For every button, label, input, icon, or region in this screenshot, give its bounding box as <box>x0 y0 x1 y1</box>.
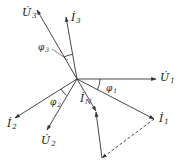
label-i1: İ1 <box>159 113 169 126</box>
phasor-diagram <box>0 0 180 166</box>
label-phi2: φ2 <box>50 98 61 108</box>
label-u3: U̇3 <box>22 7 37 20</box>
label-u2: U̇2 <box>41 135 56 148</box>
arc-phi2 <box>61 89 67 95</box>
vector-i2 <box>15 79 77 118</box>
arc-phi3 <box>64 54 73 57</box>
label-phi3: φ3 <box>38 43 49 53</box>
construction-solid <box>96 112 102 158</box>
label-i2: İ2 <box>7 118 17 131</box>
arc-phi1 <box>97 79 100 90</box>
label-u1: U̇1 <box>160 72 175 85</box>
construction-dashed <box>102 119 154 158</box>
label-in: İN <box>80 93 91 106</box>
label-phi1: φ1 <box>106 84 117 94</box>
leader-phi3 <box>52 49 68 60</box>
label-i3: İ3 <box>71 12 81 25</box>
